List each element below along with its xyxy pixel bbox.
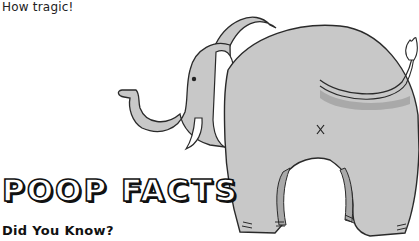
elephant-tail-tuft [406, 38, 418, 60]
page-title: POOP FACTS [2, 172, 239, 208]
elephant-eye [192, 77, 196, 81]
section-subtitle: Did You Know? [2, 223, 114, 238]
